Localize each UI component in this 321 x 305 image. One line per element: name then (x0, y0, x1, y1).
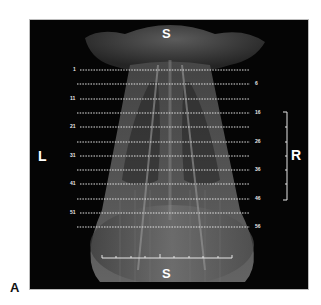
slice-label-51: 51 (70, 210, 76, 215)
slice-label-16: 16 (255, 110, 261, 115)
slice-label-21: 21 (70, 124, 76, 129)
slice-label-1: 1 (73, 67, 76, 72)
slice-label-36: 36 (255, 167, 261, 172)
orientation-label-right: R (291, 148, 301, 162)
orientation-label-left: L (38, 149, 47, 163)
slice-label-31: 31 (70, 153, 76, 158)
panel-label: A (10, 280, 19, 295)
slice-label-56: 56 (255, 224, 261, 229)
slice-label-6: 6 (255, 81, 258, 86)
figure-panel: 1 11 21 31 41 51 6 16 26 36 46 56 S S L … (0, 0, 321, 305)
orientation-label-top: S (162, 27, 171, 40)
slice-lines-overlay (0, 0, 321, 305)
vertical-scale-bar (283, 112, 287, 200)
horizontal-scale-bar (102, 254, 232, 258)
slice-label-26: 26 (255, 139, 261, 144)
orientation-label-bottom: S (162, 267, 171, 280)
slice-label-11: 11 (70, 96, 75, 101)
slice-label-46: 46 (255, 196, 261, 201)
slice-label-41: 41 (70, 181, 76, 186)
